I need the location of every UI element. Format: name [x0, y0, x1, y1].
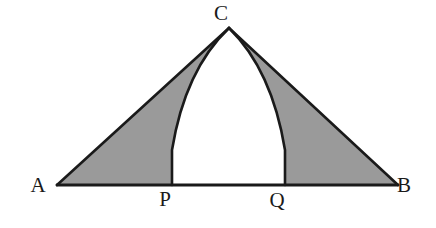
geometry-canvas: A B C P Q	[0, 0, 436, 228]
vertex-label-q: Q	[269, 188, 284, 212]
vertex-label-a: A	[30, 173, 46, 197]
vertex-label-c: C	[214, 1, 228, 25]
vertex-label-p: P	[159, 187, 171, 211]
geometry-figure: A B C P Q	[0, 0, 436, 228]
vertex-label-b: B	[397, 173, 411, 197]
